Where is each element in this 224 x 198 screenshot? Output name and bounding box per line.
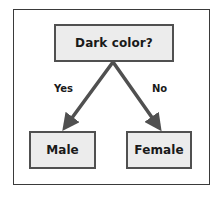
edge-label-yes: Yes — [54, 83, 73, 94]
root-node-label: Dark color? — [75, 36, 153, 50]
root-node: Dark color? — [54, 24, 174, 62]
leaf-node-male: Male — [29, 131, 96, 169]
leaf-node-male-label: Male — [46, 143, 79, 157]
leaf-node-female-label: Female — [134, 143, 183, 157]
edge-label-no: No — [152, 83, 167, 94]
leaf-node-female: Female — [126, 131, 192, 169]
